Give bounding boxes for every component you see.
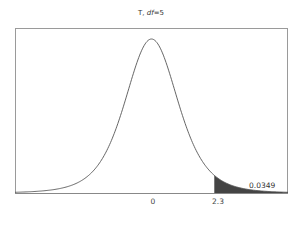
tail-probability-label: 0.0349: [249, 181, 275, 190]
plot-frame: [16, 29, 288, 194]
density-curve: [15, 39, 288, 192]
x-tick-cutoff: 2.3: [212, 197, 224, 206]
x-tick-zero: 0: [151, 197, 156, 206]
